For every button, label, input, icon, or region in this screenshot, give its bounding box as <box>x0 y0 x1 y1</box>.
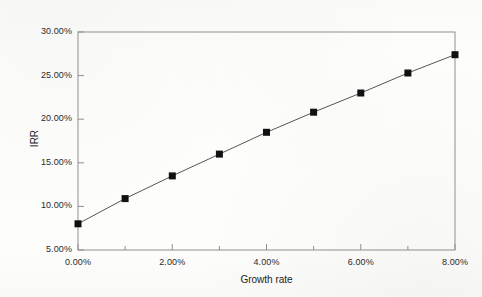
x-axis-title: Growth rate <box>207 274 327 285</box>
data-point-marker <box>452 51 459 58</box>
chart-figure: 5.00%10.00%15.00%20.00%25.00%30.00%0.00%… <box>0 0 482 297</box>
y-tick-label: 5.00% <box>46 244 72 254</box>
y-tick-label: 25.00% <box>41 70 72 80</box>
data-point-marker <box>404 70 411 77</box>
y-axis-ticks <box>78 32 84 250</box>
data-point-marker <box>310 109 317 116</box>
plot-frame <box>78 32 455 250</box>
y-tick-label: 10.00% <box>41 200 72 210</box>
x-tick-label: 8.00% <box>431 257 479 267</box>
y-tick-label: 20.00% <box>41 113 72 123</box>
data-point-marker <box>122 195 129 202</box>
y-tick-label: 15.00% <box>41 157 72 167</box>
data-point-marker <box>75 220 82 227</box>
data-point-marker <box>216 151 223 158</box>
y-axis-title: IRR <box>29 119 40 159</box>
x-tick-label: 2.00% <box>148 257 196 267</box>
y-tick-label: 30.00% <box>41 26 72 36</box>
line-chart-plot <box>0 0 482 297</box>
data-series-markers <box>75 51 459 227</box>
x-tick-label: 0.00% <box>54 257 102 267</box>
x-tick-label: 6.00% <box>337 257 385 267</box>
data-point-marker <box>357 90 364 97</box>
x-axis-ticks <box>78 244 455 250</box>
data-series-line <box>78 55 455 224</box>
x-tick-label: 4.00% <box>243 257 291 267</box>
data-point-marker <box>263 129 270 136</box>
data-point-marker <box>169 172 176 179</box>
